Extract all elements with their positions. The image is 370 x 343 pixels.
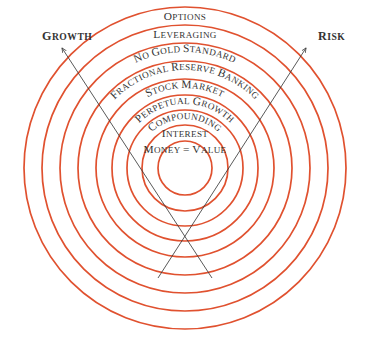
ring-label-stock-market: STOCK MARKET	[143, 78, 226, 99]
ring-labels-layer: OPTIONSLEVERAGINGNO GOLD STANDARDFRACTIO…	[108, 10, 262, 155]
ring-label-money-value: MONEY = VALUE	[143, 143, 226, 155]
diagram-canvas: OPTIONSLEVERAGINGNO GOLD STANDARDFRACTIO…	[0, 0, 370, 343]
axis-risk-label: RISK	[318, 29, 345, 43]
ring-label-options: OPTIONS	[164, 10, 207, 22]
ring-label-interest: INTEREST	[162, 127, 209, 139]
ring-options	[24, 7, 346, 329]
concentric-rings-diagram: OPTIONSLEVERAGINGNO GOLD STANDARDFRACTIO…	[0, 0, 370, 343]
rings-layer	[24, 7, 346, 329]
ring-compounding	[127, 110, 243, 226]
axis-growth-label: GROWTH	[42, 29, 92, 43]
ring-label-leveraging: LEVERAGING	[153, 28, 217, 40]
